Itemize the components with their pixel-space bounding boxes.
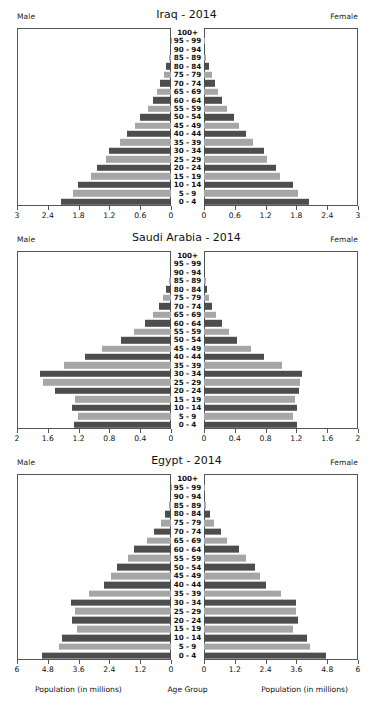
pyramid-row: 75 - 79 — [17, 294, 358, 302]
female-bar — [204, 286, 207, 292]
male-bar-cell — [17, 285, 171, 293]
female-bar-cell — [204, 164, 358, 172]
male-bar-cell — [17, 501, 171, 510]
male-bar — [73, 190, 171, 196]
pyramid-row: 35 - 39 — [17, 138, 358, 146]
pyramid-row: 35 - 39 — [17, 361, 358, 369]
age-group-label: 80 - 84 — [171, 510, 204, 517]
male-bar — [170, 493, 171, 500]
male-bar — [170, 46, 171, 52]
age-group-label: 0 - 4 — [171, 652, 204, 659]
male-bar — [120, 139, 171, 145]
pyramid-row: 60 - 64 — [17, 545, 358, 554]
axis-tick — [171, 429, 172, 433]
axis-tick-label: 0 — [169, 665, 174, 674]
axis-tick-label: 0.4 — [134, 434, 146, 443]
pyramid-chart-2: MaleSaudi Arabia - 2014Female0 - 45 - 91… — [0, 223, 373, 446]
age-group-label: 85 - 89 — [171, 502, 204, 509]
female-bar — [204, 608, 296, 615]
male-axis-title: Population (in millions) — [35, 685, 122, 694]
axis-tick — [109, 660, 110, 664]
female-bar-cell — [204, 642, 358, 651]
female-bar-cell — [204, 519, 358, 528]
female-bar — [204, 520, 214, 527]
female-bar-cell — [204, 198, 358, 206]
male-bar-cell — [17, 353, 171, 361]
pyramid-row: 0 - 4 — [17, 198, 358, 206]
male-bar-cell — [17, 616, 171, 625]
male-bar-cell — [17, 45, 171, 53]
axis-tick — [109, 429, 110, 433]
pyramid-row: 100+ — [17, 251, 358, 259]
pyramid-row: 95 - 99 — [17, 37, 358, 45]
axis-tick — [140, 429, 141, 433]
male-bar — [75, 608, 171, 615]
age-group-label: 100+ — [171, 475, 204, 482]
female-bar-cell — [204, 404, 358, 412]
female-bar-cell — [204, 563, 358, 572]
pyramid-row: 80 - 84 — [17, 285, 358, 293]
male-bar — [170, 269, 171, 275]
male-bar-cell — [17, 554, 171, 563]
axis-tick-label: 2 — [15, 434, 20, 443]
axis-tick-label: 1.2 — [73, 434, 85, 443]
female-bar-cell — [204, 545, 358, 554]
female-bar-cell — [204, 96, 358, 104]
male-bar-cell — [17, 545, 171, 554]
male-bar — [78, 182, 171, 188]
male-bar — [55, 388, 171, 394]
female-bar-cell — [204, 572, 358, 581]
female-bar — [204, 97, 222, 103]
axis-tick — [48, 660, 49, 664]
female-bar-cell — [204, 28, 358, 36]
male-bar — [78, 413, 171, 419]
age-group-label: 40 - 44 — [171, 353, 204, 360]
male-bar — [159, 303, 171, 309]
female-bar-cell — [204, 580, 358, 589]
male-bar-cell — [17, 412, 171, 420]
pyramid-row: 20 - 24 — [17, 387, 358, 395]
age-group-axis-title: Age Group — [167, 685, 207, 694]
male-bar-cell — [17, 404, 171, 412]
axis-tick-label: 3 — [356, 211, 361, 220]
age-group-label: 15 - 19 — [171, 625, 204, 632]
male-bar — [134, 328, 171, 334]
axis-tick-label: 0.8 — [260, 434, 272, 443]
female-bar — [204, 388, 299, 394]
female-bar — [204, 38, 205, 44]
axis-tick-label: 2.4 — [42, 211, 54, 220]
female-bar-cell — [204, 598, 358, 607]
female-bar — [204, 278, 206, 284]
pyramid-row: 5 - 9 — [17, 189, 358, 197]
axis-tick — [296, 206, 297, 210]
female-bar-cell — [204, 294, 358, 302]
male-bar-cell — [17, 62, 171, 70]
male-bar — [117, 564, 171, 571]
axis-tick-label: 0.6 — [229, 211, 241, 220]
male-bar-cell — [17, 54, 171, 62]
plot-area: 0 - 45 - 910 - 1415 - 1920 - 2425 - 2930… — [17, 474, 358, 660]
male-bar — [140, 114, 171, 120]
male-bar — [75, 396, 171, 402]
male-bar-cell — [17, 607, 171, 616]
age-group-label: 25 - 29 — [171, 379, 204, 386]
male-bar — [97, 165, 171, 171]
pyramid-row: 70 - 74 — [17, 302, 358, 310]
pyramid-row: 55 - 59 — [17, 104, 358, 112]
axis-tick — [140, 660, 141, 664]
male-bar-cell — [17, 378, 171, 386]
male-bar — [171, 38, 172, 44]
female-bar — [204, 413, 293, 419]
female-bar-cell — [204, 633, 358, 642]
axis-tick-label: 0 — [202, 434, 207, 443]
x-axis: 32.41.81.20.6000.61.21.82.43 — [17, 206, 358, 223]
female-bar-cell — [204, 353, 358, 361]
male-bar — [89, 590, 171, 597]
axis-tick — [266, 429, 267, 433]
female-bar — [204, 63, 209, 69]
axis-tick-label: 0.8 — [103, 434, 115, 443]
female-bar-cell — [204, 536, 358, 545]
pyramid-row: 100+ — [17, 28, 358, 36]
female-bar — [204, 156, 267, 162]
female-bar-cell — [204, 412, 358, 420]
